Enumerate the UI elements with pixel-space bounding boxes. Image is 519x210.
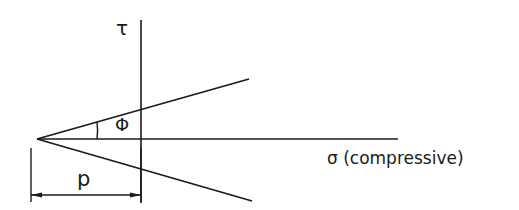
sigma-axis-label: σ (compressive) bbox=[327, 150, 464, 167]
arrowhead-left-icon bbox=[31, 193, 42, 198]
lower-envelope-line bbox=[37, 139, 252, 201]
angle-arc bbox=[97, 122, 98, 139]
phi-angle-label: Φ bbox=[115, 116, 129, 134]
arrowhead-right-icon bbox=[130, 193, 141, 198]
p-dimension-label: p bbox=[77, 169, 90, 190]
tau-axis-label: τ bbox=[116, 18, 128, 38]
upper-envelope-line bbox=[37, 79, 249, 139]
